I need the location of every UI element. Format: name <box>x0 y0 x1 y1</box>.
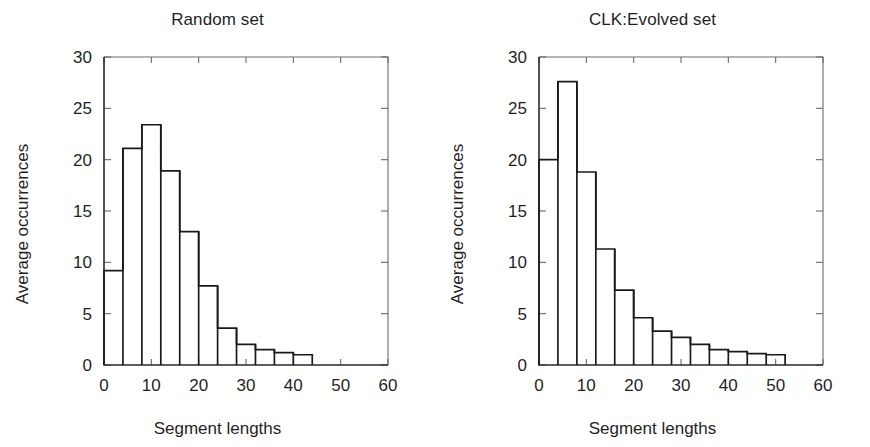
right-ytick-label: 10 <box>508 253 527 272</box>
right-ytick-label: 25 <box>508 99 527 118</box>
left-ytick-label: 20 <box>73 151 92 170</box>
right-xtick-label: 60 <box>814 376 833 395</box>
right-ytick-label: 30 <box>508 48 527 67</box>
right-ytick-label: 5 <box>518 305 527 324</box>
left-xtick-label: 20 <box>189 376 208 395</box>
left-ytick-label: 5 <box>83 305 92 324</box>
left-histogram-outline <box>104 125 312 365</box>
right-xtick-label: 40 <box>719 376 738 395</box>
plot-area-right: 0102030405060051015202530 <box>435 0 870 447</box>
right-ytick-label: 0 <box>518 356 527 375</box>
right-xtick-label: 30 <box>672 376 691 395</box>
left-xtick-label: 10 <box>142 376 161 395</box>
right-xtick-label: 0 <box>534 376 543 395</box>
right-histogram-outline <box>539 82 785 365</box>
panel-random-set: Random set Average occurrences 010203040… <box>0 0 435 447</box>
left-xtick-label: 50 <box>331 376 350 395</box>
right-xtick-label: 20 <box>624 376 643 395</box>
left-xtick-label: 30 <box>237 376 256 395</box>
left-xtick-label: 0 <box>99 376 108 395</box>
left-ytick-label: 10 <box>73 253 92 272</box>
plot-area-left: 0102030405060051015202530 <box>0 0 435 447</box>
x-axis-label-right: Segment lengths <box>435 419 870 439</box>
x-axis-label-left: Segment lengths <box>0 419 435 439</box>
panel-clk-evolved-set: CLK:Evolved set Average occurrences 0102… <box>435 0 870 447</box>
left-ytick-label: 25 <box>73 99 92 118</box>
left-ytick-label: 0 <box>83 356 92 375</box>
right-ytick-label: 20 <box>508 151 527 170</box>
left-xtick-label: 40 <box>284 376 303 395</box>
left-ytick-label: 30 <box>73 48 92 67</box>
right-xtick-label: 10 <box>577 376 596 395</box>
right-xtick-label: 50 <box>766 376 785 395</box>
left-ytick-label: 15 <box>73 202 92 221</box>
histogram-figure: Random set Average occurrences 010203040… <box>0 0 870 447</box>
left-xtick-label: 60 <box>379 376 398 395</box>
right-ytick-label: 15 <box>508 202 527 221</box>
